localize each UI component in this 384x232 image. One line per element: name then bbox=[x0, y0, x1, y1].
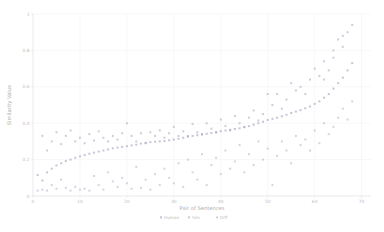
data-point bbox=[55, 188, 57, 190]
data-point bbox=[220, 119, 222, 121]
data-point bbox=[88, 133, 90, 135]
data-point bbox=[276, 117, 278, 119]
data-point bbox=[276, 155, 278, 157]
data-point bbox=[239, 144, 241, 146]
data-point bbox=[55, 131, 57, 133]
data-point bbox=[79, 155, 81, 157]
data-point bbox=[253, 124, 255, 126]
data-point bbox=[182, 186, 184, 188]
data-point bbox=[178, 135, 180, 137]
data-point bbox=[201, 133, 203, 135]
data-point bbox=[51, 140, 53, 142]
data-point bbox=[234, 115, 236, 117]
data-point bbox=[98, 151, 100, 153]
data-point bbox=[271, 104, 273, 106]
series-diff bbox=[37, 100, 354, 191]
data-point bbox=[328, 133, 330, 135]
data-point bbox=[290, 112, 292, 114]
data-point bbox=[206, 184, 208, 186]
data-point bbox=[342, 108, 344, 110]
data-point bbox=[281, 140, 283, 142]
data-point bbox=[342, 46, 344, 48]
data-point bbox=[347, 69, 349, 71]
data-point bbox=[224, 129, 226, 131]
data-point bbox=[206, 122, 208, 124]
data-point bbox=[239, 127, 241, 129]
data-point bbox=[88, 153, 90, 155]
data-point bbox=[215, 131, 217, 133]
data-point bbox=[234, 128, 236, 130]
data-point bbox=[210, 132, 212, 134]
data-point bbox=[88, 190, 90, 192]
data-point bbox=[206, 133, 208, 135]
data-point bbox=[314, 129, 316, 131]
legend-label: Human bbox=[164, 215, 179, 220]
y-tick-label: 0.6 bbox=[23, 84, 30, 89]
data-point bbox=[84, 188, 86, 190]
data-point bbox=[304, 93, 306, 95]
data-point bbox=[229, 129, 231, 131]
data-point bbox=[154, 135, 156, 137]
data-point bbox=[46, 171, 48, 173]
data-point bbox=[243, 126, 245, 128]
data-point bbox=[65, 187, 67, 189]
x-tick-label: 0 bbox=[32, 199, 35, 204]
data-point bbox=[135, 144, 137, 146]
data-point bbox=[248, 125, 250, 127]
data-point bbox=[37, 190, 39, 192]
series-sim bbox=[41, 24, 353, 152]
data-point bbox=[300, 144, 302, 146]
data-point bbox=[314, 68, 316, 70]
data-point bbox=[201, 153, 203, 155]
data-point bbox=[332, 49, 334, 51]
data-point bbox=[93, 175, 95, 177]
data-point bbox=[276, 93, 278, 95]
data-point bbox=[121, 177, 123, 179]
data-point bbox=[239, 122, 241, 124]
data-point bbox=[295, 111, 297, 113]
x-tick-label: 50 bbox=[265, 199, 271, 204]
data-point bbox=[309, 150, 311, 152]
y-tick-label: 0.2 bbox=[23, 157, 30, 162]
chart-legend: HumanSimDiff bbox=[160, 215, 227, 220]
data-point bbox=[337, 117, 339, 119]
y-tick-labels: 00.20.40.60.81 bbox=[23, 12, 30, 199]
data-point bbox=[102, 150, 104, 152]
data-point bbox=[131, 144, 133, 146]
data-point bbox=[107, 171, 109, 173]
data-point bbox=[267, 148, 269, 150]
x-tick-label: 20 bbox=[124, 199, 130, 204]
data-point bbox=[70, 159, 72, 161]
data-point bbox=[262, 121, 264, 123]
data-point bbox=[182, 130, 184, 132]
data-point bbox=[351, 100, 353, 102]
data-point bbox=[281, 115, 283, 117]
data-point bbox=[51, 168, 53, 170]
data-point bbox=[51, 184, 53, 186]
data-point bbox=[149, 131, 151, 133]
data-point bbox=[257, 119, 259, 121]
data-point bbox=[159, 129, 161, 131]
data-point bbox=[41, 180, 43, 182]
data-point bbox=[60, 162, 62, 164]
data-point bbox=[65, 160, 67, 162]
data-point bbox=[229, 168, 231, 170]
data-point bbox=[74, 140, 76, 142]
data-point bbox=[295, 135, 297, 137]
data-point bbox=[159, 184, 161, 186]
data-point bbox=[262, 113, 264, 115]
data-point bbox=[253, 164, 255, 166]
data-point bbox=[286, 150, 288, 152]
data-point bbox=[117, 186, 119, 188]
data-point bbox=[286, 99, 288, 101]
data-point bbox=[135, 140, 137, 142]
data-point bbox=[70, 129, 72, 131]
data-point bbox=[192, 135, 194, 137]
data-point bbox=[121, 132, 123, 134]
data-point bbox=[154, 173, 156, 175]
x-tick-label: 60 bbox=[312, 199, 318, 204]
data-point bbox=[126, 122, 128, 124]
data-point bbox=[262, 159, 264, 161]
data-point bbox=[210, 164, 212, 166]
data-point bbox=[253, 109, 255, 111]
